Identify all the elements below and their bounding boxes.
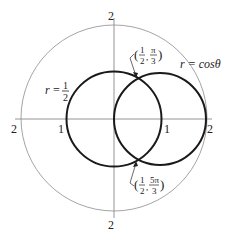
svg-text:): ) xyxy=(158,47,162,62)
svg-text:1: 1 xyxy=(63,80,68,91)
svg-text:,: , xyxy=(146,52,148,62)
label-right-1: 1 xyxy=(164,122,170,136)
svg-text:2: 2 xyxy=(140,186,145,196)
svg-text:3: 3 xyxy=(152,186,157,196)
polar-plot: 2 2 2 2 1 1 r = 1 2 r = cosθ ( 1 2 , π 3… xyxy=(0,0,226,238)
svg-text:1: 1 xyxy=(140,45,145,55)
label-left-2: 2 xyxy=(11,122,17,136)
svg-text:π: π xyxy=(151,45,156,55)
label-top-2: 2 xyxy=(108,9,114,23)
label-bottom-2: 2 xyxy=(108,218,114,232)
label-right-2: 2 xyxy=(207,122,213,136)
svg-text:): ) xyxy=(160,177,164,192)
svg-text:2: 2 xyxy=(63,92,68,103)
svg-text:=: = xyxy=(53,83,60,97)
label-r-cos: r = cosθ xyxy=(180,57,221,71)
svg-text:r: r xyxy=(45,83,50,97)
svg-text:5π: 5π xyxy=(150,175,160,185)
svg-text:3: 3 xyxy=(151,56,156,66)
label-left-1: 1 xyxy=(58,122,64,136)
svg-text:1: 1 xyxy=(140,175,145,185)
svg-text:2: 2 xyxy=(140,56,145,66)
label-point-5pi-3: ( 1 2 , 5π 3 ) xyxy=(130,161,164,196)
svg-text:(: ( xyxy=(134,177,138,192)
polar-diagram: 2 2 2 2 1 1 r = 1 2 r = cosθ ( 1 2 , π 3… xyxy=(0,0,226,238)
svg-text:(: ( xyxy=(134,47,138,62)
svg-text:,: , xyxy=(146,182,148,192)
label-r-half: r = 1 2 xyxy=(45,80,69,103)
